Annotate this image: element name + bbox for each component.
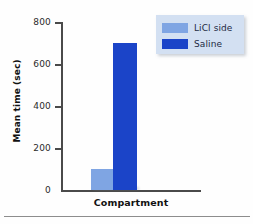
y-tick-label-400-wrap: 400 [22,101,51,111]
y-tick-label-800-wrap: 800 [22,17,51,27]
x-axis-line [61,190,201,192]
y-tick-mark-800 [55,22,61,24]
y-tick-label-0-wrap: 0 [22,185,51,195]
y-tick-label-400: 400 [22,101,51,111]
y-tick-mark-600 [55,64,61,66]
legend-item-licl-side: LiCl side [162,21,233,34]
legend-label-saline: Saline [194,39,222,49]
legend-label-licl-side: LiCl side [194,23,233,33]
bar-saline [113,43,137,190]
y-axis-title: Mean time (sec) [12,46,22,156]
y-tick-mark-200 [55,148,61,150]
x-axis-title: Compartment [61,197,201,208]
y-tick-label-0: 0 [22,185,51,195]
legend-item-saline: Saline [162,37,222,50]
y-tick-label-200: 200 [22,143,51,153]
y-tick-label-600-wrap: 600 [22,59,51,69]
legend: LiCl side Saline [156,15,244,54]
y-tick-label-800: 800 [22,17,51,27]
y-tick-label-600: 600 [22,59,51,69]
legend-swatch-saline [162,39,188,49]
legend-swatch-licl-side [162,23,188,33]
y-tick-label-200-wrap: 200 [22,143,51,153]
bar-licl-side [91,169,113,190]
bar-chart-figure: 800 600 400 200 0 Mean time (sec) Compar… [0,0,253,224]
page-bottom-rule [4,216,250,217]
y-tick-mark-400 [55,106,61,108]
